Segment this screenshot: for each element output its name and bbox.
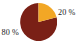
pie-label-major: 80 % xyxy=(2,29,19,37)
pie-chart-graphic xyxy=(20,3,57,41)
pie-chart-figure: 20 % 80 % xyxy=(0,0,83,44)
pie-label-minor: 20 % xyxy=(58,9,75,17)
